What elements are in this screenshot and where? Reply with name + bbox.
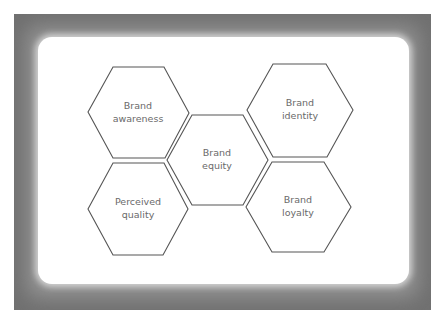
hex-label-line1: Brand <box>286 97 314 108</box>
hex-label-line2: equity <box>202 160 232 171</box>
hex-label-line1: Brand <box>124 100 152 111</box>
hex-label-line2: quality <box>122 209 155 220</box>
hex-label-line1: Brand <box>203 147 231 158</box>
hex-label-line1: Brand <box>284 194 312 205</box>
hex-label-line1: Perceived <box>115 196 161 207</box>
hex-brand-loyalty: Brand loyalty <box>246 162 351 252</box>
hex-brand-equity: Brand equity <box>167 115 268 205</box>
hex-label-line2: loyalty <box>282 207 314 218</box>
hexagon-diagram: Brand awareness Brand identity Perceived… <box>0 0 443 316</box>
hex-label-line2: awareness <box>113 113 164 124</box>
hex-brand-identity: Brand identity <box>247 64 353 157</box>
hex-brand-awareness: Brand awareness <box>88 67 189 158</box>
hex-label-line2: identity <box>282 110 319 121</box>
hex-perceived-quality: Perceived quality <box>88 163 188 255</box>
